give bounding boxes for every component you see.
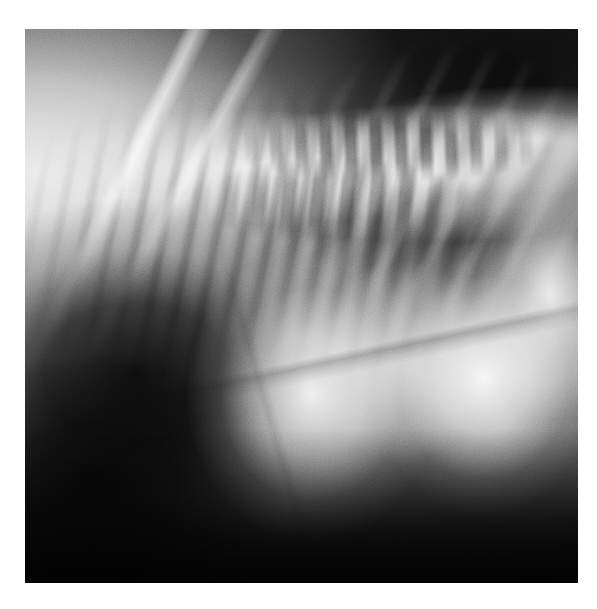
radiograph-image	[25, 29, 578, 583]
abdominal-mass-layer	[25, 29, 578, 583]
film-grain-layer	[25, 29, 578, 583]
vignette-layer	[25, 29, 578, 583]
lung-gas-field-layer	[25, 29, 578, 583]
caudal-rib-layer	[25, 29, 578, 583]
scapula-streak-layer	[25, 29, 578, 583]
thoracic-spine-layer	[25, 29, 578, 583]
density-layer-base	[25, 29, 578, 583]
radiograph-viewer	[0, 0, 597, 609]
organ-boundary-layer	[25, 29, 578, 583]
ventral-floor-layer	[25, 29, 578, 583]
spinous-processes-layer	[25, 29, 578, 583]
rib-cage-layer	[25, 29, 578, 583]
vertebral-bodies-layer	[25, 29, 578, 583]
